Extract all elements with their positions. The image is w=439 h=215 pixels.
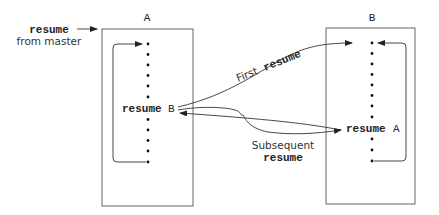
coroutine-b-dots	[371, 42, 374, 163]
diagram-svg: A resume B resume from mas	[0, 0, 439, 215]
coroutine-b: B resume A	[326, 12, 415, 204]
coroutine-a-resume-target: B	[168, 103, 175, 115]
diagram-canvas: A resume B resume from mas	[0, 0, 439, 215]
coroutine-b-resume-keyword: resume	[346, 123, 386, 135]
coroutine-a-label: A	[144, 12, 151, 24]
coroutine-b-loop-arrow	[374, 43, 406, 161]
entry-from-master: resume from master	[17, 24, 97, 47]
coroutine-b-label: B	[369, 12, 376, 24]
coroutine-b-box	[326, 28, 415, 204]
resume-a-return-arrow	[180, 113, 341, 130]
coroutine-a: A resume B	[102, 12, 193, 206]
subsequent-resume-keyword: resume	[263, 152, 303, 164]
coroutine-b-resume-target: A	[393, 123, 400, 135]
subsequent-resume-arrow	[178, 107, 341, 133]
coroutine-a-resume-keyword: resume	[122, 103, 162, 115]
first-resume-label: First resume	[233, 43, 303, 85]
entry-text: from master	[17, 35, 82, 47]
subsequent-resume-prefix: Subsequent	[252, 139, 314, 151]
